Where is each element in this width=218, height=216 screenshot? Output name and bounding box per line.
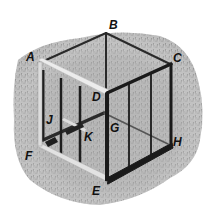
label-a: A	[25, 50, 35, 64]
label-j: J	[46, 113, 53, 127]
cube-frame-illustration: A B C D E F G H J K	[0, 0, 218, 216]
label-f: F	[25, 149, 33, 163]
label-d: D	[92, 90, 101, 104]
cube-diagram: A B C D E F G H J K	[0, 0, 218, 216]
label-b: B	[109, 18, 118, 32]
label-c: C	[173, 51, 182, 65]
label-g: G	[110, 121, 119, 135]
label-h: H	[173, 135, 182, 149]
label-e: E	[92, 184, 101, 198]
front-edge-de	[105, 93, 109, 181]
label-k: K	[84, 130, 94, 144]
